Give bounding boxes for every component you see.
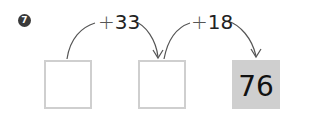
box-value: 76 (234, 70, 278, 103)
given-value-box: 76 (232, 60, 280, 109)
arrow-step-2-left (164, 23, 190, 59)
answer-box-2[interactable] (138, 60, 186, 109)
answer-box-1[interactable] (44, 60, 92, 109)
operation-label-1: +33 (98, 10, 140, 34)
operand: 33 (115, 10, 140, 34)
plus-sign: + (191, 10, 208, 34)
operand: 18 (208, 10, 233, 34)
operation-label-2: +18 (191, 10, 233, 34)
plus-sign: + (98, 10, 115, 34)
arrow-step-1-left (67, 23, 95, 59)
